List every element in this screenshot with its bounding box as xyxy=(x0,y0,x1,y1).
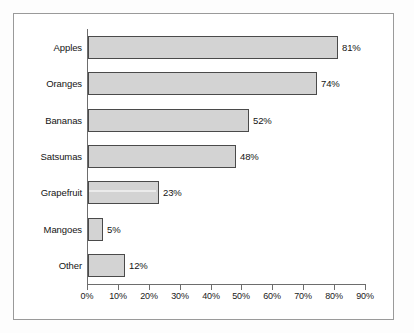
plot-area: 0%10%20%30%40%50%60%70%80%90% Apples81%O… xyxy=(0,0,414,333)
bar-value-label-bananas: 52% xyxy=(253,115,272,126)
bar-value-label-apples: 81% xyxy=(342,42,361,53)
bar-value-label-satsumas: 48% xyxy=(240,151,259,162)
bar-value-label-grapefruit: 23% xyxy=(163,187,182,198)
bar-value-label-other: 12% xyxy=(129,260,148,271)
x-tick-label-90pct: 90% xyxy=(345,291,385,301)
category-label-bananas: Bananas xyxy=(45,115,82,126)
category-label-other: Other xyxy=(59,260,82,271)
bar-value-label-mangoes: 5% xyxy=(107,224,121,235)
bar-other[interactable] xyxy=(88,254,125,277)
x-tick-90pct xyxy=(365,285,366,290)
bar-bananas[interactable] xyxy=(88,109,249,132)
category-label-satsumas: Satsumas xyxy=(41,151,82,162)
bar-apples[interactable] xyxy=(88,36,338,59)
x-tick-10pct xyxy=(118,285,119,290)
bar-grapefruit[interactable] xyxy=(88,181,159,204)
x-tick-30pct xyxy=(180,285,181,290)
x-tick-20pct xyxy=(149,285,150,290)
x-tick-0pct xyxy=(87,285,88,290)
category-label-grapefruit: Grapefruit xyxy=(41,187,82,198)
x-tick-70pct xyxy=(303,285,304,290)
x-tick-80pct xyxy=(334,285,335,290)
x-tick-60pct xyxy=(272,285,273,290)
value-axis-line xyxy=(87,284,366,285)
bar-oranges[interactable] xyxy=(88,72,317,95)
category-label-mangoes: Mangoes xyxy=(44,224,82,235)
bar-value-label-oranges: 74% xyxy=(321,78,340,89)
x-tick-40pct xyxy=(211,285,212,290)
chart-figure: 0%10%20%30%40%50%60%70%80%90% Apples81%O… xyxy=(0,0,414,333)
bar-satsumas[interactable] xyxy=(88,145,236,168)
category-label-oranges: Oranges xyxy=(46,78,82,89)
category-label-apples: Apples xyxy=(54,42,82,53)
bar-mangoes[interactable] xyxy=(88,218,103,241)
x-tick-50pct xyxy=(241,285,242,290)
